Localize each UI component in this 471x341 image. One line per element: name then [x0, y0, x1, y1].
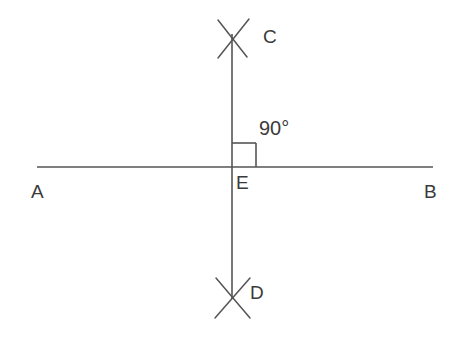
right-angle-marker-icon — [232, 143, 256, 167]
point-label-b: B — [424, 182, 437, 201]
point-label-e: E — [236, 173, 249, 192]
angle-measure-label: 90° — [259, 118, 289, 138]
point-label-c: C — [263, 27, 277, 46]
arc-cross-c-icon — [218, 19, 249, 58]
point-label-d: D — [250, 283, 264, 302]
geometry-diagram: A B C D E 90° — [0, 0, 471, 341]
diagram-svg — [0, 0, 471, 341]
point-label-a: A — [31, 182, 44, 201]
